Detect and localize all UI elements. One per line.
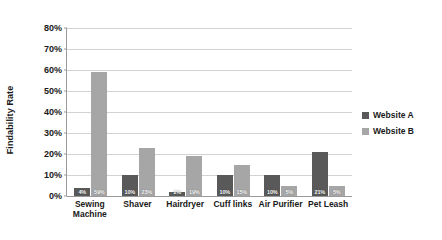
- x-axis-category-label: Shaver: [114, 199, 162, 219]
- legend-item-website-a[interactable]: Website A: [362, 110, 414, 120]
- bar-website-b[interactable]: [234, 165, 250, 197]
- y-axis-tick-label: 40%: [44, 107, 62, 117]
- y-axis-tick-label: 20%: [44, 149, 62, 159]
- bar-website-b[interactable]: [139, 148, 155, 196]
- bar-website-b[interactable]: [281, 186, 297, 197]
- y-axis-tick-label: 60%: [44, 65, 62, 75]
- y-axis-tick-label: 50%: [44, 86, 62, 96]
- bar-chart: Findability Rate 80%70%60%50%40%30%20%10…: [0, 0, 442, 240]
- bar-group: 2%19%: [162, 28, 210, 196]
- axis-baseline: [67, 196, 352, 197]
- x-axis-category-label: Sewing Machine: [66, 199, 114, 219]
- legend-label: Website A: [373, 110, 414, 120]
- legend-label: Website B: [373, 126, 414, 136]
- x-axis-category-label: Cuff links: [209, 199, 257, 219]
- y-axis-title: Findability Rate: [5, 86, 15, 155]
- y-axis-tick-label: 0%: [49, 191, 62, 201]
- bar-website-b[interactable]: [329, 186, 345, 197]
- bar-groups: 4%59%10%23%2%19%10%15%10%5%21%5%: [67, 28, 352, 196]
- legend-item-website-b[interactable]: Website B: [362, 126, 414, 136]
- bar-website-a[interactable]: [169, 192, 185, 196]
- y-axis-tick-label: 10%: [44, 170, 62, 180]
- bar-group: 10%15%: [210, 28, 258, 196]
- bar-group: 10%5%: [257, 28, 305, 196]
- x-axis-labels: Sewing MachineShaverHairdryerCuff linksA…: [66, 199, 352, 219]
- bar-group: 10%23%: [115, 28, 163, 196]
- x-axis-category-label: Air Purifier: [257, 199, 305, 219]
- x-axis-category-label: Pet Leash: [304, 199, 352, 219]
- y-axis-tick-label: 70%: [44, 44, 62, 54]
- bar-website-a[interactable]: [312, 152, 328, 196]
- chart-legend: Website A Website B: [362, 110, 414, 136]
- plot-area: 80%70%60%50%40%30%20%10%0% 4%59%10%23%2%…: [66, 28, 352, 196]
- bar-website-a[interactable]: [264, 175, 280, 196]
- bar-group: 4%59%: [67, 28, 115, 196]
- bar-group: 21%5%: [305, 28, 353, 196]
- x-axis-category-label: Hairdryer: [161, 199, 209, 219]
- bar-website-a[interactable]: [122, 175, 138, 196]
- bar-website-a[interactable]: [217, 175, 233, 196]
- y-axis-tick-label: 80%: [44, 23, 62, 33]
- legend-swatch-icon: [362, 128, 369, 135]
- y-axis-tick-label: 30%: [44, 128, 62, 138]
- bar-website-b[interactable]: [186, 156, 202, 196]
- legend-swatch-icon: [362, 112, 369, 119]
- bar-website-a[interactable]: [74, 188, 90, 196]
- bar-website-b[interactable]: [91, 72, 107, 196]
